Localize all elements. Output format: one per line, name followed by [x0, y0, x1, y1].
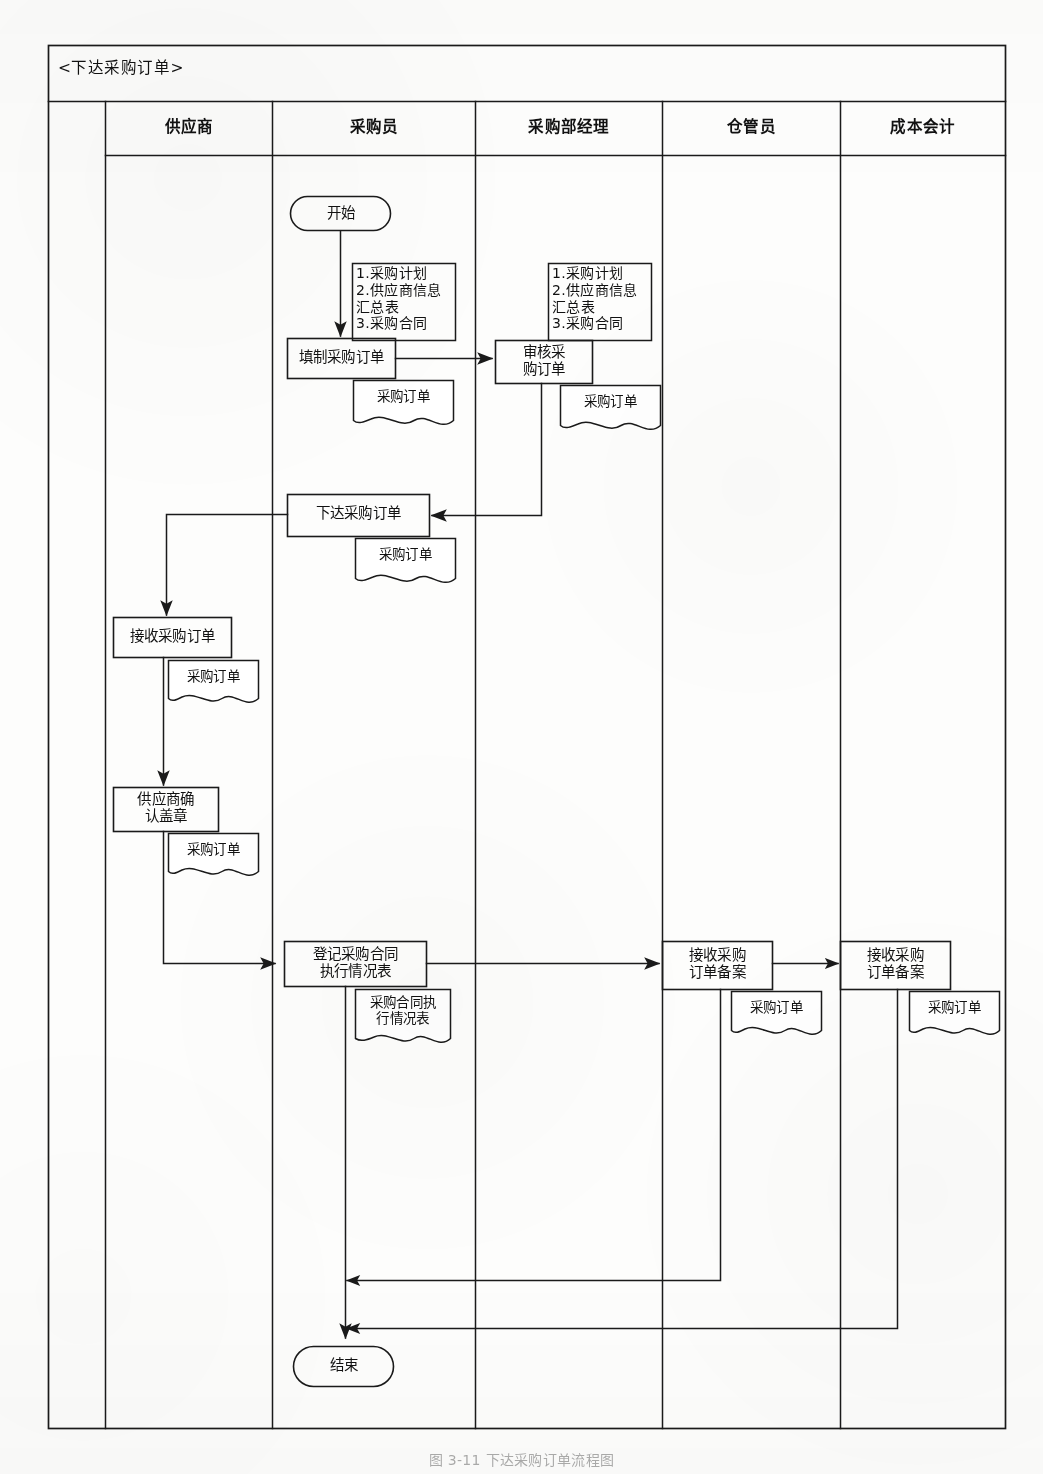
doc-po-fill-label: 采购订单 [354, 389, 453, 405]
lane-header-cost-accountant: 成本会计 [841, 118, 1005, 136]
doc-po-warehouse-label: 采购订单 [732, 1000, 821, 1016]
note-buyer-inputs-label: 1.采购计划 2.供应商信息 汇总表 3.采购合同 [356, 265, 456, 332]
doc-po-confirm-label: 采购订单 [169, 842, 258, 858]
node-fill-po-label: 填制采购订单 [288, 349, 395, 366]
figure-caption: 图 3-11 下达采购订单流程图 [0, 1452, 1043, 1469]
node-review-po-label: 审核采 购订单 [496, 344, 592, 378]
node-accounting-file-label: 接收采购 订单备案 [841, 947, 950, 981]
lane-header-supplier: 供应商 [106, 118, 272, 136]
node-register-contract-label: 登记采购合同 执行情况表 [285, 946, 426, 980]
edge-accounting-to-end [347, 990, 898, 1329]
node-end-label: 结束 [294, 1357, 394, 1374]
lane-header-warehouse-keeper: 仓管员 [663, 118, 840, 136]
lane-header-buyer: 采购员 [273, 118, 475, 136]
flowchart-page: <下达采购订单> 供应商 采购员 采购部经理 仓管员 成本会计 开始 结束 1.… [0, 0, 1043, 1474]
doc-po-receive-label: 采购订单 [169, 669, 258, 685]
lane-header-purchasing-manager: 采购部经理 [476, 118, 662, 136]
node-supplier-confirm-label: 供应商确 认盖章 [114, 791, 218, 825]
diagram-title: <下达采购订单> [58, 59, 358, 77]
node-start-label: 开始 [291, 205, 391, 222]
doc-contract-status-label: 采购合同执 行情况表 [356, 995, 450, 1027]
node-issue-po-label: 下达采购订单 [288, 505, 429, 522]
note-manager-inputs-label: 1.采购计划 2.供应商信息 汇总表 3.采购合同 [552, 265, 652, 332]
doc-po-review-label: 采购订单 [561, 394, 660, 410]
doc-po-accounting-label: 采购订单 [910, 1000, 999, 1016]
node-warehouse-file-label: 接收采购 订单备案 [663, 947, 772, 981]
diagram-outer-frame [49, 46, 1006, 1429]
edge-issue-po-to-receive-po [167, 515, 288, 616]
doc-po-issue-label: 采购订单 [356, 547, 455, 563]
flowchart-canvas [0, 0, 1043, 1474]
node-receive-po-label: 接收采购订单 [114, 628, 231, 645]
